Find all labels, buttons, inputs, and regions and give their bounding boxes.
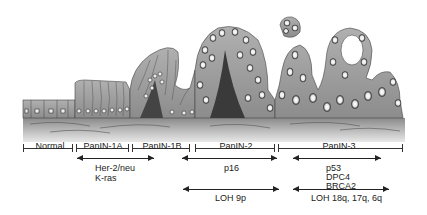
stage-label-normal: Normal <box>30 141 70 151</box>
panin-1a-epithelium <box>75 80 130 118</box>
gene-p16: p16 <box>224 163 239 173</box>
arrow-loh-late <box>293 186 389 193</box>
gene-her2neu: Her-2/neu <box>95 163 135 173</box>
stage-label-panin-1a: PanIN-1A <box>82 141 124 151</box>
arrow-loh-intermediate <box>183 186 279 193</box>
loh-9p-label: LOH 9p <box>215 193 246 203</box>
epithelium-illustration <box>0 0 427 145</box>
normal-epithelium <box>23 100 75 118</box>
arrow-intermediate-alterations <box>182 155 277 162</box>
detached-cell-cluster <box>280 17 300 37</box>
panin-2-epithelium <box>195 27 275 119</box>
arrow-late-alterations <box>293 155 381 162</box>
loh-late-label: LOH 18q, 17q, 6q <box>311 193 382 203</box>
stage-label-panin-2: PanIN-2 <box>212 141 260 151</box>
gene-kras: K-ras <box>95 173 117 183</box>
panin-3-epithelium <box>275 17 403 118</box>
arrow-early-alterations <box>77 155 154 162</box>
stage-label-panin-3: PanIN-3 <box>315 141 363 151</box>
panin-1b-epithelium <box>130 48 195 118</box>
stage-label-panin-1b: PanIN-1B <box>140 141 184 151</box>
